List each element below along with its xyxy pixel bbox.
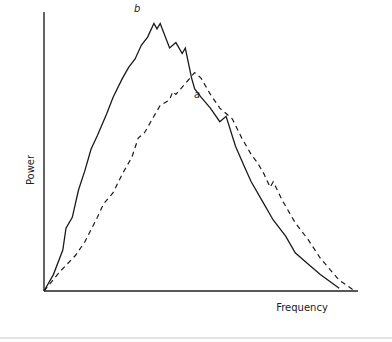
- series-b-solid-line: [44, 24, 339, 292]
- plot-area: [44, 12, 358, 291]
- series-a-dashed-line: [44, 73, 355, 291]
- power-spectrum-chart: b a Power Frequency: [0, 0, 392, 342]
- x-axis-label: Frequency: [276, 302, 328, 313]
- series-b-label: b: [134, 3, 140, 14]
- bottom-divider: [0, 337, 392, 339]
- series-a-label: a: [194, 89, 200, 100]
- y-axis-label: Power: [25, 154, 36, 185]
